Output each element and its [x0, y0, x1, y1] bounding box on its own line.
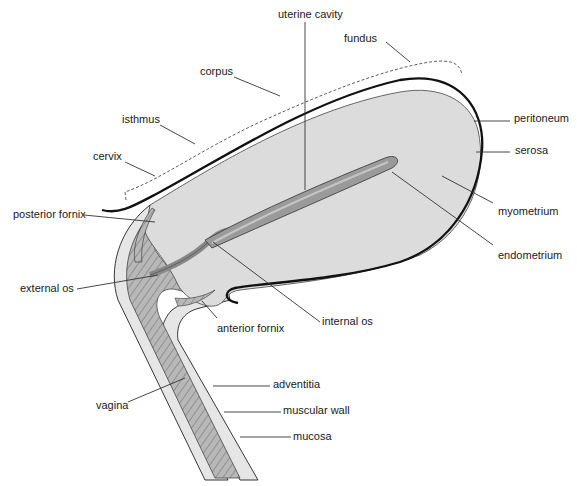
label-serosa: serosa — [515, 144, 549, 156]
label-mucosa: mucosa — [293, 430, 332, 442]
label-anterior-fornix: anterior fornix — [217, 322, 285, 334]
label-external-os: external os — [20, 282, 74, 294]
label-vagina: vagina — [96, 399, 129, 411]
label-myometrium: myometrium — [498, 205, 559, 217]
label-posterior-fornix: posterior fornix — [13, 208, 86, 220]
label-fundus: fundus — [344, 32, 378, 44]
label-muscular-wall: muscular wall — [283, 404, 350, 416]
label-corpus: corpus — [200, 65, 234, 77]
label-uterine-cavity: uterine cavity — [278, 8, 343, 20]
label-endometrium: endometrium — [498, 249, 562, 261]
label-cervix: cervix — [93, 150, 122, 162]
label-adventitia: adventitia — [273, 378, 321, 390]
label-internal-os: internal os — [322, 315, 373, 327]
label-isthmus: isthmus — [122, 113, 160, 125]
label-peritoneum: peritoneum — [514, 112, 569, 124]
uterus-diagram: uterine cavity fundus corpus isthmus cer… — [0, 0, 577, 486]
